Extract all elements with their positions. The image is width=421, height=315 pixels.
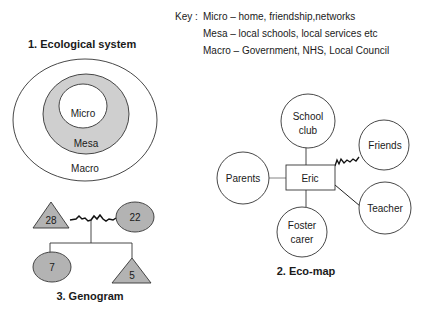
- diagram-canvas: Key : Micro – home, friendship,networks …: [0, 0, 421, 315]
- parents-label: Parents: [226, 173, 260, 184]
- key-line-mesa: Mesa – local schools, local services etc: [203, 28, 378, 39]
- son-age: 5: [129, 270, 135, 281]
- node-foster-carer: [277, 207, 327, 257]
- foster-carer-label-line1: Foster: [288, 220, 317, 231]
- school-club-label-line1: School: [293, 111, 324, 122]
- mesa-label: Mesa: [74, 138, 99, 149]
- friends-label: Friends: [368, 140, 401, 151]
- mother-age: 22: [129, 212, 141, 223]
- ecological-system-title: 1. Ecological system: [28, 38, 136, 50]
- key-line-micro: Micro – home, friendship,networks: [203, 11, 355, 22]
- micro-label: Micro: [71, 108, 96, 119]
- relationship-line-conflict: [70, 215, 116, 221]
- eric-label: Eric: [301, 173, 318, 184]
- foster-carer-label-line2: carer: [291, 234, 314, 245]
- father-age: 28: [45, 215, 57, 226]
- eco-map: School club Friends Parents Eric Teacher…: [217, 94, 411, 277]
- eco-map-title: 2. Eco-map: [277, 265, 336, 277]
- teacher-label: Teacher: [367, 203, 403, 214]
- school-club-label-line2: club: [299, 125, 318, 136]
- key-prefix: Key :: [175, 11, 198, 22]
- genogram: 28 22 7 5 3. Genogram: [33, 202, 154, 302]
- key-legend: Key : Micro – home, friendship,networks …: [175, 11, 389, 56]
- daughter-age: 7: [49, 262, 55, 273]
- micro-circle: [59, 84, 107, 128]
- key-line-macro: Macro – Government, NHS, Local Council: [203, 45, 389, 56]
- link-friends-stressful: [335, 157, 359, 166]
- link-teacher: [335, 185, 360, 206]
- ecological-system: 1. Ecological system Micro Mesa Macro: [13, 38, 157, 181]
- macro-label: Macro: [71, 163, 99, 174]
- genogram-title: 3. Genogram: [56, 290, 123, 302]
